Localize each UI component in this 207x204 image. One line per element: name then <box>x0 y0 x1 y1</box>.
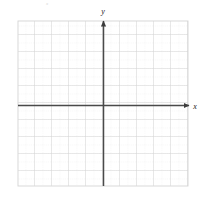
y-axis-label: y <box>100 7 105 16</box>
coordinate-plane: x y <box>0 0 207 204</box>
x-axis-label: x <box>192 102 197 111</box>
stray-mark-icon: x <box>44 1 50 7</box>
graph-figure: x x y <box>0 0 207 204</box>
